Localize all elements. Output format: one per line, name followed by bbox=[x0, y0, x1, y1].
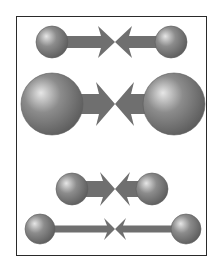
right-sphere-icon bbox=[136, 173, 168, 205]
sphere-arrow-diagram bbox=[0, 0, 220, 267]
left-sphere-icon bbox=[25, 214, 55, 244]
diagram-row-4 bbox=[25, 214, 201, 244]
arrow-right-icon bbox=[62, 26, 115, 58]
right-sphere-icon bbox=[143, 73, 205, 135]
arrow-right-icon bbox=[49, 218, 115, 240]
diagram-row-1 bbox=[36, 26, 187, 58]
right-sphere-icon bbox=[155, 26, 187, 58]
right-sphere-icon bbox=[171, 214, 201, 244]
left-sphere-icon bbox=[56, 173, 88, 205]
left-sphere-icon bbox=[21, 73, 83, 135]
diagram-row-2 bbox=[21, 73, 205, 135]
left-sphere-icon bbox=[36, 26, 68, 58]
diagram-canvas bbox=[0, 0, 220, 267]
diagram-row-3 bbox=[56, 172, 168, 206]
arrow-left-icon bbox=[115, 218, 177, 240]
arrow-left-icon bbox=[115, 26, 161, 58]
